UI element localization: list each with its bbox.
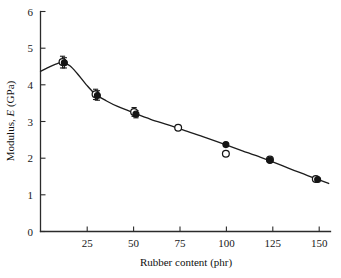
plot-area: 6 5 4 3 2 1 0 25 50 75 100 125 150 Rubbe… (0, 0, 341, 278)
x-tick-label-75: 75 (175, 237, 187, 249)
fitted-curve (41, 62, 329, 183)
data-point-open (222, 150, 229, 157)
x-tick-label-150: 150 (311, 237, 328, 249)
y-tick-label-2: 2 (28, 152, 34, 164)
curve-path (41, 62, 329, 183)
x-tick-marks (87, 227, 319, 232)
data-point-filled (267, 157, 273, 163)
x-tick-label-50: 50 (128, 237, 140, 249)
y-axis-title: Modulus, E (GPa) (4, 80, 17, 161)
x-tick-label-100: 100 (218, 237, 235, 249)
error-bars (60, 56, 139, 118)
axis-group (41, 12, 331, 232)
x-axis-title: Rubber content (phr) (140, 256, 233, 269)
x-tick-label-25: 25 (82, 237, 94, 249)
y-tick-label-5: 5 (28, 42, 34, 54)
data-point-filled (315, 176, 321, 182)
data-point-filled (223, 142, 229, 148)
data-markers (59, 59, 321, 183)
y-tick-label-3: 3 (28, 116, 34, 128)
y-tick-label-1: 1 (28, 189, 34, 201)
data-point-open (175, 124, 182, 131)
y-tick-label-6: 6 (28, 6, 34, 18)
data-point-filled (94, 92, 100, 98)
y-tick-label-0: 0 (28, 226, 34, 238)
data-point-filled (133, 111, 139, 117)
y-tick-label-4: 4 (28, 79, 34, 91)
data-point-filled (61, 60, 67, 66)
x-tick-label-125: 125 (265, 237, 282, 249)
chart-figure: 6 5 4 3 2 1 0 25 50 75 100 125 150 Rubbe… (0, 0, 341, 278)
y-tick-marks (41, 12, 46, 232)
